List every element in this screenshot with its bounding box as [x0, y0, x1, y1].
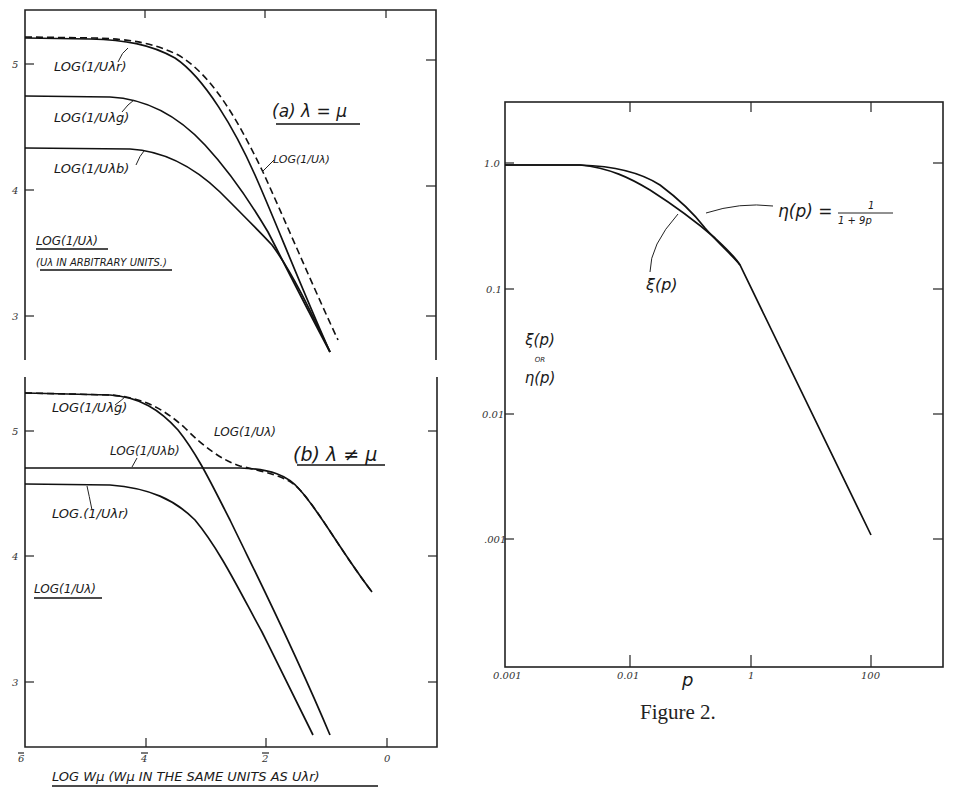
panel-b: 6 4 2 0 5 4 3 LOG(1/Uλg) LOG(1/Uλb) LOG.… — [11, 377, 437, 786]
figure-canvas: 5 4 3 LOG(1/Uλr) LOG(1/Uλg) LOG(1/Uλb) L… — [0, 0, 954, 796]
curve-a-r — [25, 38, 330, 352]
curve-b-total-dashed — [25, 393, 372, 592]
panel-a-ytick: 5 — [12, 59, 18, 70]
curve-b-b — [25, 468, 372, 592]
label-a-total: LOG(1/Uλ) — [273, 153, 330, 166]
right-xtick: 0.001 — [493, 670, 522, 681]
arrow-eta — [706, 205, 773, 213]
curve-a-total-dashed — [25, 37, 338, 340]
right-ytick: 1.0 — [484, 158, 501, 169]
label-a-r: LOG(1/Uλr) — [54, 59, 127, 74]
label-eta-num: 1 — [868, 200, 874, 211]
curve-b-r — [25, 484, 313, 735]
arrow-a-total — [262, 160, 274, 172]
panel-a-ylabel-2: (Uλ IN ARBITRARY UNITS.) — [36, 257, 167, 268]
panel-b-ytick: 4 — [11, 551, 18, 562]
panel-b-title: (b) λ ≠ μ — [293, 443, 377, 465]
right-x-axis-label: p — [681, 669, 693, 690]
right-ytick: .001 — [484, 534, 506, 545]
x-tick: 0 — [384, 753, 391, 764]
panel-b-ytick: 5 — [12, 426, 18, 437]
label-b-total: LOG(1/Uλ) — [214, 425, 276, 439]
right-ytick: 0.1 — [486, 284, 502, 295]
curve-a-b — [25, 148, 330, 352]
left-x-axis-label: LOG Wμ (Wμ IN THE SAME UNITS AS Uλr) — [52, 769, 320, 784]
curve-xi — [505, 165, 740, 265]
curve-a-g — [25, 96, 330, 352]
label-b-b: LOG(1/Uλb) — [110, 444, 180, 458]
x-tick: 4 — [140, 753, 147, 764]
right-xtick: 0.01 — [617, 670, 639, 681]
panel-a-ytick: 4 — [11, 185, 18, 196]
label-b-g: LOG(1/Uλg) — [52, 400, 127, 415]
panel-right-frame — [505, 102, 943, 667]
label-a-b: LOG(1/Uλb) — [54, 161, 129, 176]
figure-caption: Figure 2. — [640, 700, 716, 725]
right-xtick: 100 — [861, 670, 881, 681]
panel-a-ylabel-1: LOG(1/Uλ) — [36, 234, 98, 248]
panel-b-ytick: 3 — [12, 677, 18, 688]
arrow-xi — [650, 214, 678, 272]
label-xi: ξ(p) — [645, 275, 678, 294]
label-eta: η(p) = — [778, 201, 832, 221]
label-b-r: LOG.(1/Uλr) — [52, 506, 129, 521]
x-tick: 6 — [18, 753, 25, 764]
panel-a-ytick: 3 — [12, 311, 18, 322]
right-ylabel-3: η(p) — [525, 369, 556, 387]
label-eta-den: 1 + 9p — [838, 215, 872, 226]
right-ytick: 0.01 — [482, 409, 504, 420]
right-xtick: 1 — [748, 670, 754, 681]
x-tick: 2 — [261, 753, 268, 764]
label-a-g: LOG(1/Uλg) — [54, 110, 129, 125]
right-ylabel-2: OR — [535, 356, 546, 364]
panel-b-ylabel: LOG(1/Uλ) — [34, 582, 96, 596]
panel-a-title: (a) λ = μ — [272, 101, 347, 121]
panel-right: 0.001 0.01 1 100 p 1.0 0.1 0.01 .001 η(p… — [482, 102, 943, 690]
panel-a: 5 4 3 LOG(1/Uλr) LOG(1/Uλg) LOG(1/Uλb) L… — [11, 10, 436, 360]
right-ylabel-1: ξ(p) — [524, 331, 555, 349]
